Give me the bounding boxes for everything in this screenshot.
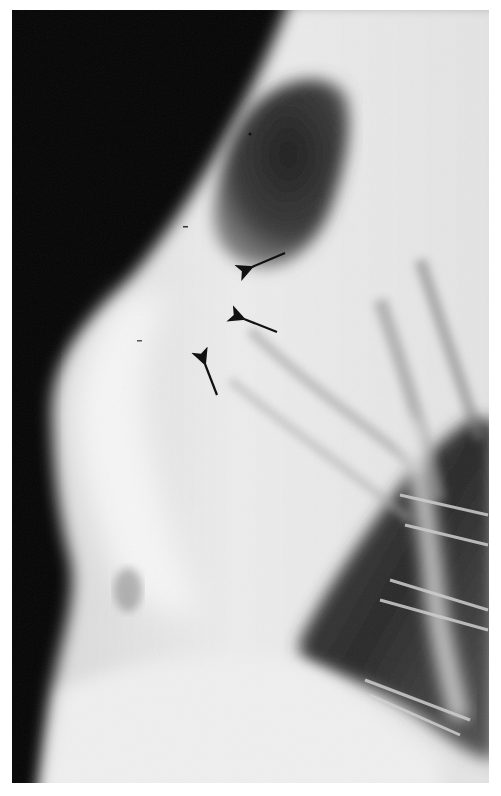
- chest-radiograph: [12, 10, 489, 783]
- film-speck: [183, 226, 188, 228]
- film-grain: [12, 10, 489, 783]
- radiograph-frame: [12, 10, 489, 783]
- film-speck: [249, 133, 252, 136]
- film-speck: [137, 340, 142, 342]
